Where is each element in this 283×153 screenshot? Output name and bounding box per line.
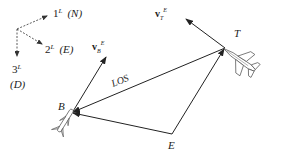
velocity-b-label: vBE xyxy=(92,40,105,54)
los-line xyxy=(73,48,225,112)
point-b-label: B xyxy=(58,100,65,112)
axis-3-direction: (D) xyxy=(10,78,26,91)
earth-to-bomber-line xyxy=(73,113,172,134)
axis-1-north-arrow xyxy=(17,16,47,29)
point-t-label: T xyxy=(234,27,241,39)
diagram-canvas: 1L(N) 2L(E) 3L (D) B T E LOS vBE vTE xyxy=(0,0,283,153)
velocity-b-arrow xyxy=(72,57,106,113)
velocity-t-arrow xyxy=(186,19,225,48)
missile-b-icon xyxy=(52,106,79,137)
velocity-t-label: vTE xyxy=(155,7,167,21)
geometry xyxy=(72,19,225,134)
axis-1-label: 1L(N) xyxy=(53,7,82,20)
axis-3-label: 3L xyxy=(12,63,22,75)
local-frame: 1L(N) 2L(E) 3L (D) xyxy=(10,7,82,91)
point-e-label: E xyxy=(167,139,175,151)
los-label: LOS xyxy=(109,72,131,89)
engagement-diagram: 1L(N) 2L(E) 3L (D) B T E LOS vBE vTE xyxy=(0,0,283,153)
earth-to-target-line xyxy=(172,49,224,134)
target-jet-icon xyxy=(216,38,263,82)
axis-2-label: 2L(E) xyxy=(45,43,74,56)
axis-2-east-arrow xyxy=(17,29,42,44)
